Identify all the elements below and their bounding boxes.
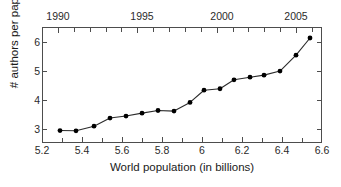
chart-figure: World population (in billions) # authors… <box>0 0 341 187</box>
data-point <box>140 111 145 116</box>
data-point <box>188 100 193 105</box>
data-point <box>92 124 97 129</box>
data-point <box>74 128 79 133</box>
series-line <box>60 38 310 131</box>
data-point <box>262 73 267 78</box>
data-point <box>108 116 113 121</box>
data-point <box>172 109 177 114</box>
data-point <box>294 53 299 58</box>
data-point <box>308 36 313 41</box>
data-series-layer <box>0 0 341 187</box>
series-points <box>58 36 313 134</box>
data-point <box>202 88 207 93</box>
data-point <box>156 108 161 113</box>
data-point <box>218 86 223 91</box>
data-point <box>248 75 253 80</box>
data-point <box>58 128 63 133</box>
data-point <box>124 114 129 119</box>
data-point <box>278 69 283 74</box>
data-point <box>232 77 237 82</box>
